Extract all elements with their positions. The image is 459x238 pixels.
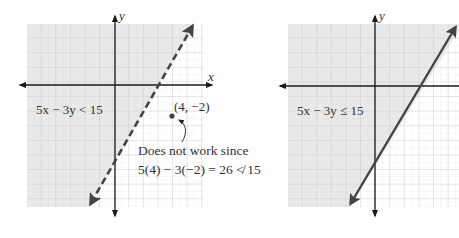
left-inequality-label: 5x − 3y < 15 <box>36 102 103 117</box>
y-axis-label: y <box>377 8 385 23</box>
inequality-graphs: x y 5x − 3y < 15 (4, −2) Does not work s… <box>0 0 459 238</box>
test-point <box>169 113 174 118</box>
right-graph: y 5x − 3y ≤ 15 <box>280 8 459 216</box>
test-point-label: (4, −2) <box>174 99 210 114</box>
note-line-2: 5(4) − 3(−2) = 26 ≮ 15 <box>138 162 261 177</box>
note-line-1: Does not work since <box>138 143 249 158</box>
left-graph: x y 5x − 3y < 15 (4, −2) Does not work s… <box>20 8 261 216</box>
x-axis-label: x <box>207 69 214 84</box>
right-inequality-label: 5x − 3y ≤ 15 <box>297 103 363 118</box>
y-axis-label: y <box>117 8 125 23</box>
